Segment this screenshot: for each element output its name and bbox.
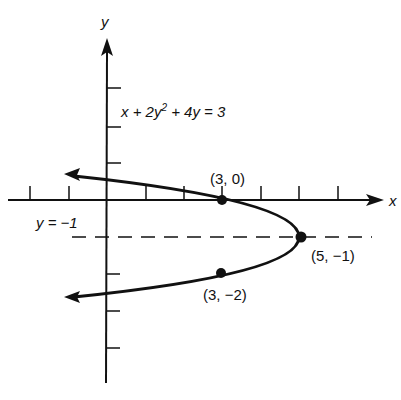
y-axis-label: y: [100, 13, 110, 30]
point-3-neg2: [216, 268, 226, 278]
point-label-3-neg2: (3, −2): [203, 286, 247, 303]
y-axis: [101, 38, 121, 383]
x-axis-label: x: [388, 192, 397, 209]
point-vertex-5-neg1: [296, 232, 307, 243]
arrow-upper-left-icon: [64, 168, 80, 181]
x-axis: [8, 186, 384, 206]
point-label-3-0: (3, 0): [210, 170, 245, 187]
axis-of-symmetry-label: y = −1: [35, 214, 78, 231]
point-3-0: [217, 195, 227, 205]
point-label-vertex: (5, −1): [311, 247, 355, 264]
parabola-graph: x y x + 2y2 + 4y = 3 y = −1 (3, 0) (5, −…: [0, 0, 401, 400]
equation-label: x + 2y2 + 4y = 3: [120, 102, 226, 120]
